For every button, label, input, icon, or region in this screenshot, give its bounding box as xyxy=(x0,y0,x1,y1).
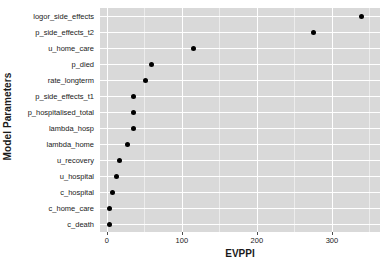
y-axis-tick-label: p_side_effects_t2 xyxy=(35,28,94,37)
gridline-minor-vertical xyxy=(219,8,220,232)
gridline-major-vertical xyxy=(182,8,183,232)
data-point xyxy=(114,174,119,179)
data-point xyxy=(131,94,136,99)
gridline-major-horizontal xyxy=(100,144,380,145)
gridline-minor-vertical xyxy=(369,8,370,232)
y-axis-tick-label: u_hospital xyxy=(60,172,94,181)
data-point xyxy=(191,46,196,51)
y-axis-tick-label: p_hospitalised_total xyxy=(28,108,94,117)
x-axis-tick-label: 0 xyxy=(105,236,109,245)
y-axis-tick-label: c_death xyxy=(67,220,94,229)
gridline-major-horizontal xyxy=(100,176,380,177)
data-point xyxy=(143,78,148,83)
gridline-major-horizontal xyxy=(100,224,380,225)
gridline-major-horizontal xyxy=(100,96,380,97)
evppi-scatter-chart: Model Parameters logor_side_effectsp_sid… xyxy=(0,0,387,272)
gridline-major-horizontal xyxy=(100,32,380,33)
gridline-major-horizontal xyxy=(100,64,380,65)
y-axis-tick-label: c_hospital xyxy=(60,188,94,197)
data-point xyxy=(107,206,112,211)
data-point xyxy=(125,142,130,147)
y-axis-tick-label: p_side_effects_t1 xyxy=(35,92,94,101)
y-axis-tick-label: u_recovery xyxy=(57,156,94,165)
x-axis-tick-mark xyxy=(107,232,108,235)
gridline-major-horizontal xyxy=(100,128,380,129)
gridline-major-horizontal xyxy=(100,16,380,17)
x-axis-title: EVPPI xyxy=(100,248,380,259)
x-axis-tick-label: 100 xyxy=(176,236,189,245)
gridline-minor-vertical xyxy=(144,8,145,232)
y-axis-tick-label: p_died xyxy=(71,60,94,69)
y-axis-title-text: Model Parameters xyxy=(3,72,14,160)
y-axis-tick-label: lambda_home xyxy=(46,140,94,149)
data-point xyxy=(131,126,136,131)
gridline-major-horizontal xyxy=(100,208,380,209)
plot-panel xyxy=(100,8,380,232)
y-axis-tick-label: lambda_hosp xyxy=(49,124,94,133)
x-axis-tick-mark xyxy=(182,232,183,235)
gridline-minor-vertical xyxy=(294,8,295,232)
y-axis-tick-label: c_home_care xyxy=(49,204,94,213)
gridline-major-horizontal xyxy=(100,48,380,49)
y-axis-tick-label: u_home_care xyxy=(48,44,94,53)
gridline-major-vertical xyxy=(107,8,108,232)
data-point xyxy=(117,158,122,163)
gridline-major-horizontal xyxy=(100,192,380,193)
gridline-major-horizontal xyxy=(100,112,380,113)
y-axis-tick-label: rate_longterm xyxy=(48,76,94,85)
data-point xyxy=(110,190,115,195)
data-point xyxy=(149,62,154,67)
x-axis: 0100200300 xyxy=(100,232,380,246)
y-axis-tick-labels: logor_side_effectsp_side_effects_t2u_hom… xyxy=(16,8,94,232)
x-axis-tick-mark xyxy=(332,232,333,235)
x-axis-tick-label: 300 xyxy=(326,236,339,245)
y-axis-tick-label: logor_side_effects xyxy=(33,12,94,21)
data-point xyxy=(359,14,364,19)
gridline-major-vertical xyxy=(332,8,333,232)
gridline-major-horizontal xyxy=(100,160,380,161)
data-point xyxy=(311,30,316,35)
data-point xyxy=(107,222,112,227)
data-point xyxy=(131,110,136,115)
gridline-major-vertical xyxy=(257,8,258,232)
x-axis-tick-mark xyxy=(257,232,258,235)
x-axis-tick-label: 200 xyxy=(251,236,264,245)
y-axis-title: Model Parameters xyxy=(0,0,16,232)
